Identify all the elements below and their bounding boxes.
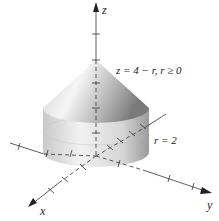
x-axis-label: x <box>40 204 45 219</box>
z-axis-label: z <box>102 3 107 18</box>
y-arrow-icon <box>200 187 212 194</box>
cone-equation-label: z = 4 − r, r ≥ 0 <box>116 64 182 76</box>
figure: z y x z = 4 − r, r ≥ 0 r = 2 <box>0 0 219 221</box>
x-arrow-icon <box>28 198 37 207</box>
z-arrow-icon <box>93 2 99 12</box>
solid-diagram <box>0 0 219 221</box>
y-axis-label: y <box>207 198 212 213</box>
cylinder-equation-label: r = 2 <box>154 134 177 146</box>
